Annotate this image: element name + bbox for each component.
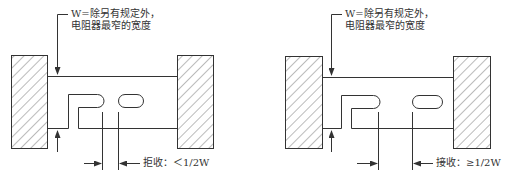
trim-slot — [413, 96, 443, 109]
width-leader-line — [58, 15, 69, 75]
left-terminal — [12, 56, 48, 149]
reject-criterion: 拒收：＜1/2W — [143, 157, 209, 169]
accept-criterion-value: ≥1/2W — [466, 157, 501, 168]
accept-figure — [286, 15, 491, 171]
reject-note-line1: W=除另有规定外， — [71, 8, 160, 20]
right-terminal — [454, 57, 491, 149]
accept-note-line2: 电阻器最窄的宽度 — [345, 20, 425, 32]
trim-cut-outline — [323, 96, 454, 129]
reject-note-line2: 电阻器最窄的宽度 — [71, 20, 151, 32]
width-leader-line — [332, 15, 343, 76]
trim-slot — [119, 95, 144, 108]
reject-criterion-label: 拒收： — [143, 157, 173, 168]
trim-cut-outline — [48, 95, 178, 129]
right-terminal — [178, 56, 214, 149]
reject-criterion-value: ＜1/2W — [173, 157, 209, 168]
left-terminal — [286, 57, 323, 149]
accept-criterion: 接收：≥1/2W — [436, 157, 501, 169]
accept-criterion-label: 接收： — [436, 157, 466, 168]
reject-figure — [12, 15, 214, 171]
accept-note-line1: W=除另有规定外， — [345, 8, 434, 20]
